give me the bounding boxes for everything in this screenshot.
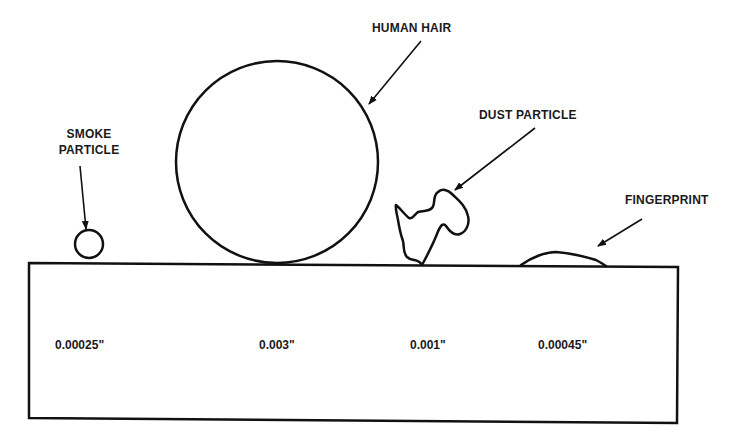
label-smoke-line2: PARTICLE [44, 142, 134, 158]
size-dust: 0.001" [410, 338, 446, 352]
label-dust-particle: DUST PARTICLE [479, 107, 577, 123]
hair-arrow [369, 41, 421, 104]
size-smoke: 0.00025" [55, 338, 104, 352]
label-smoke-particle: SMOKE PARTICLE [44, 126, 134, 158]
label-human-hair: HUMAN HAIR [372, 20, 451, 36]
fingerprint-mound [521, 252, 606, 266]
smoke-arrow [80, 166, 86, 229]
label-fingerprint: FINGERPRINT [625, 192, 709, 208]
smoke-particle-circle [75, 230, 103, 258]
dust-arrow [455, 128, 535, 190]
size-hair: 0.003" [259, 338, 295, 352]
human-hair-circle [176, 61, 378, 263]
dust-particle-shape [396, 190, 469, 265]
contaminant-size-diagram [0, 0, 746, 444]
size-fingerprint: 0.00045" [538, 338, 587, 352]
fingerprint-arrow [598, 219, 642, 246]
label-smoke-line1: SMOKE [44, 126, 134, 142]
